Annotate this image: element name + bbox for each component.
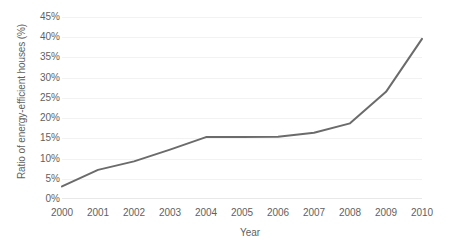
chart-title-remnant	[30, 0, 230, 4]
y-axis-tick-label: 25%	[28, 93, 60, 103]
plot-area	[62, 17, 422, 199]
y-axis-tick-label: 30%	[28, 73, 60, 83]
chart-container: Ratio of energy-efficient houses (%) 0%5…	[0, 0, 450, 249]
x-axis-tick-labels: 2000200120022003200420052006200720082009…	[0, 207, 450, 221]
x-axis-title: Year	[55, 227, 445, 238]
y-axis-tick-label: 20%	[28, 113, 60, 123]
y-axis-tick-label: 10%	[28, 154, 60, 164]
series-layer	[62, 17, 422, 199]
line-series-energy-efficient-houses	[62, 39, 422, 187]
y-axis-tick-label: 5%	[28, 174, 60, 184]
y-axis-title: Ratio of energy-efficient houses (%)	[16, 7, 27, 197]
y-axis-tick-label: 15%	[28, 133, 60, 143]
y-axis-tick-label: 0%	[28, 194, 60, 204]
y-axis-tick-label: 40%	[28, 32, 60, 42]
x-axis-tick-label: 2010	[400, 207, 444, 219]
y-axis-tick-label: 35%	[28, 52, 60, 62]
y-axis-tick-label: 45%	[28, 12, 60, 22]
